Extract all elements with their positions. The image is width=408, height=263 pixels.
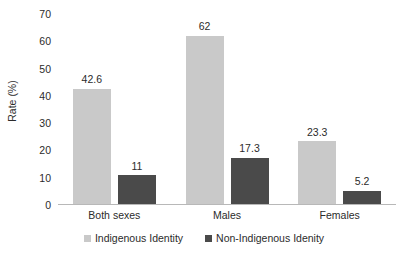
bar-value-label: 17.3 [239, 143, 259, 154]
bar-groups: 42.6116217.323.35.2 [58, 14, 396, 205]
chart-legend: Indigenous IdentityNon-Indigenous Idenit… [0, 232, 408, 244]
bar-item: 62 [186, 14, 224, 205]
y-axis-tick-label: 70 [39, 8, 51, 20]
bar-value-label: 23.3 [307, 127, 327, 138]
y-axis-tick-label: 0 [45, 199, 51, 211]
y-axis-tick-label: 40 [39, 90, 51, 102]
bar-group: 6217.3 [171, 14, 284, 205]
bar-item: 42.6 [73, 14, 111, 205]
y-axis-title: Rate (%) [6, 61, 18, 141]
bar-value-label: 62 [199, 21, 211, 32]
bar-item: 11 [118, 14, 156, 205]
y-axis-tick-label: 20 [39, 144, 51, 156]
legend-item[interactable]: Indigenous Identity [84, 232, 183, 244]
legend-label: Indigenous Identity [95, 232, 183, 244]
bar-group: 42.611 [58, 14, 171, 205]
bar[interactable] [118, 175, 156, 205]
bar-chart: Rate (%) 706050403020100 42.6116217.323.… [0, 0, 408, 263]
bar[interactable] [298, 141, 336, 205]
bar-value-label: 42.6 [82, 74, 102, 85]
bar[interactable] [186, 36, 224, 205]
bar-value-label: 11 [131, 161, 142, 172]
legend-swatch-icon [84, 235, 91, 242]
x-axis-category-labels: Both sexesMalesFemales [58, 209, 396, 221]
bar[interactable] [231, 158, 269, 205]
y-axis-tick-label: 10 [39, 172, 51, 184]
x-axis-category-label: Females [283, 209, 396, 221]
bar-item: 17.3 [231, 14, 269, 205]
legend-label: Non-Indigenous Idenity [216, 232, 324, 244]
x-axis-category-label: Both sexes [58, 209, 171, 221]
x-axis-category-label: Males [171, 209, 284, 221]
y-axis-tick-label: 30 [39, 117, 51, 129]
bar[interactable] [73, 89, 111, 205]
legend-swatch-icon [205, 235, 212, 242]
bar-item: 5.2 [343, 14, 381, 205]
bar[interactable] [343, 191, 381, 205]
y-axis-tick-label: 50 [39, 63, 51, 75]
bar-value-label: 5.2 [355, 176, 370, 187]
legend-item[interactable]: Non-Indigenous Idenity [205, 232, 324, 244]
y-axis-tick-label: 60 [39, 35, 51, 47]
bar-group: 23.35.2 [283, 14, 396, 205]
x-axis-line [58, 204, 396, 205]
bar-item: 23.3 [298, 14, 336, 205]
plot-area: 706050403020100 42.6116217.323.35.2 [58, 14, 396, 205]
